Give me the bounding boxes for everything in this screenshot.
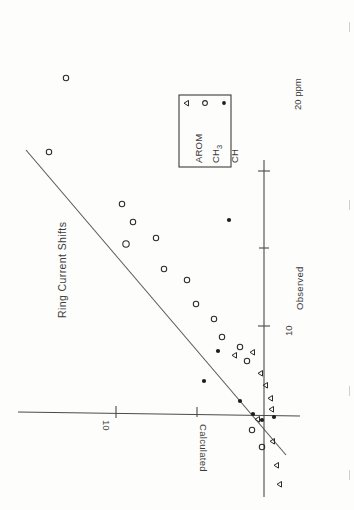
data-point-arom (258, 371, 263, 377)
data-point-ch3 (244, 358, 249, 363)
plot-canvas (0, 0, 354, 510)
data-point-ch3 (211, 316, 216, 321)
data-point-ch (251, 412, 255, 416)
data-point-ch3 (184, 277, 189, 282)
data-point-ch3 (249, 427, 254, 432)
ring-current-shifts-scatter-plot: Ring Current Shifts Observed 20 ppm 10 C… (0, 0, 354, 510)
scan-edge-mark (349, 386, 350, 396)
data-point-ch3 (237, 344, 242, 349)
data-point-ch3 (153, 235, 158, 240)
calculated-axis-line (18, 412, 300, 416)
scan-edge-mark (349, 200, 350, 210)
data-point-arom (255, 417, 260, 423)
data-point-arom (268, 396, 273, 402)
data-point-arom (274, 463, 279, 469)
legend-label-arom: AROM (193, 134, 204, 163)
data-point-ch3 (63, 75, 68, 80)
data-point-ch (272, 415, 276, 419)
data-point-ch (227, 218, 231, 222)
data-point-ch3 (130, 219, 135, 224)
data-point-ch3 (193, 301, 198, 306)
legend-label-ch3-sub: 3 (215, 145, 224, 149)
calculated-tick-label-10: 10 (101, 420, 112, 431)
data-point-ch3 (161, 266, 166, 271)
data-point-ch (202, 379, 206, 383)
data-point-arom (250, 350, 255, 356)
data-point-ch (238, 399, 242, 403)
observed-axis-label: Observed (294, 266, 305, 310)
observed-tick-label-10: 10 (283, 325, 294, 336)
data-point-ch (260, 418, 264, 422)
legend-label-ch3-text: CH (210, 149, 221, 163)
legend-label-ch3: CH3 (210, 145, 224, 164)
data-point-ch3 (123, 241, 129, 247)
legend-marker-arom (184, 100, 189, 106)
observed-tick-label-20: 20 ppm (292, 78, 303, 110)
data-point-ch3 (219, 334, 224, 339)
data-point-arom (277, 482, 282, 488)
page-title: Ring Current Shifts (56, 222, 68, 318)
data-point-arom (232, 353, 237, 359)
data-point-arom (269, 407, 274, 413)
scan-edge-mark (349, 22, 350, 32)
calculated-axis-label: Calculated (198, 424, 209, 472)
series-ch3-points (46, 75, 264, 449)
data-point-ch (216, 349, 220, 353)
scan-edge-mark (349, 470, 350, 480)
legend-marker-ch (222, 101, 226, 105)
data-point-ch3 (119, 201, 124, 206)
legend-label-ch: CH (229, 149, 240, 163)
data-point-ch3 (46, 149, 51, 154)
legend-marker-ch3 (203, 101, 208, 106)
